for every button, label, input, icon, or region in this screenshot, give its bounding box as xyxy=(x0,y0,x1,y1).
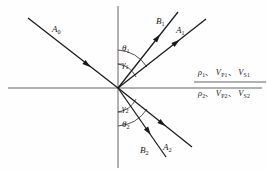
angle-label-theta1: θ1 xyxy=(122,44,130,53)
diagram-canvas xyxy=(0,0,267,172)
medium-1-properties: ρ1、 VP1、 VS1 xyxy=(198,69,250,77)
ray-label-B1: B1 xyxy=(156,17,165,26)
angle-label-gamma2: γ2 xyxy=(122,104,129,113)
angle-label-gamma1: γ1 xyxy=(122,60,129,69)
ray-line-A0 xyxy=(28,18,118,88)
ray-label-A1: A1 xyxy=(176,26,185,35)
angle-label-theta2: θ2 xyxy=(122,120,130,129)
ray-diagram-figure: A0 B1 A1 B2 A2 θ1 γ1 γ2 θ2 ρ1、 VP1、 VS1 … xyxy=(0,0,267,172)
ray-line-A2 xyxy=(118,88,192,147)
ray-label-A2: A2 xyxy=(163,143,172,152)
ray-label-B2: B2 xyxy=(140,146,149,155)
medium-2-properties: ρ2、 VP2、 VS2 xyxy=(198,90,250,98)
ray-label-A0: A0 xyxy=(52,25,61,34)
